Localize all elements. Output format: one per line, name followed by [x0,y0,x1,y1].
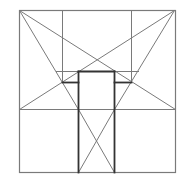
background [0,0,183,180]
geometric-diagram [0,0,183,180]
